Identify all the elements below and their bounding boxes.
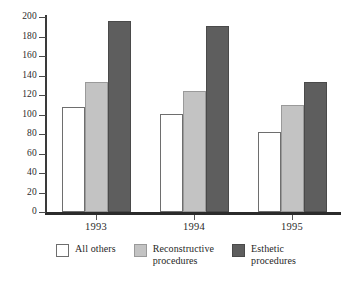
legend-label-1: Reconstructive procedures: [153, 243, 214, 266]
legend-label-2: Esthetic procedures: [251, 243, 296, 266]
legend-item-2[interactable]: Esthetic procedures: [232, 243, 296, 266]
legend-swatch-icon: [56, 244, 69, 257]
bar-group-1995: [0, 0, 354, 281]
legend-swatch-icon: [134, 244, 147, 257]
bar-chart-figure: 020406080100120140160180200 199319941995…: [0, 0, 354, 281]
legend-swatch-icon: [232, 244, 245, 257]
bar-1995-series-0: [258, 132, 281, 212]
chart-legend: All othersReconstructive proceduresEsthe…: [56, 243, 346, 266]
legend-item-0[interactable]: All others: [56, 243, 116, 257]
legend-item-1[interactable]: Reconstructive procedures: [134, 243, 214, 266]
legend-label-0: All others: [75, 243, 116, 255]
bar-1995-series-2: [304, 82, 327, 212]
bar-1995-series-1: [281, 105, 304, 212]
